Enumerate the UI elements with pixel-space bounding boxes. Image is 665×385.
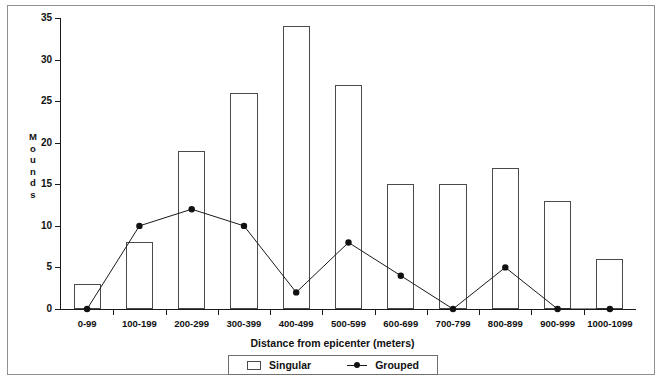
y-tick-label: 25 [26, 96, 52, 106]
bar [387, 184, 414, 309]
x-tick-mark [270, 310, 271, 315]
x-tick-label: 600-699 [375, 318, 427, 329]
x-tick-label: 200-299 [166, 318, 218, 329]
bar [283, 26, 310, 309]
bar [544, 201, 571, 309]
y-tick-label: 30 [26, 55, 52, 65]
y-axis-title: Mounds [26, 131, 40, 200]
x-tick-mark [584, 310, 585, 315]
x-tick-label: 1000-1099 [584, 318, 636, 329]
y-tick-mark [55, 101, 60, 102]
x-tick-mark [375, 310, 376, 315]
y-tick-label: 0 [26, 304, 52, 314]
y-tick-mark [55, 226, 60, 227]
y-tick-mark [55, 143, 60, 144]
legend-label-grouped: Grouped [375, 359, 419, 371]
x-tick-mark [322, 310, 323, 315]
x-tick-mark [427, 310, 428, 315]
bar [74, 284, 101, 309]
y-axis-title-char: M [26, 131, 40, 143]
x-tick-label: 0-99 [61, 318, 113, 329]
x-tick-mark [113, 310, 114, 315]
bar [230, 93, 257, 309]
y-tick-label: 10 [26, 221, 52, 231]
bar [439, 184, 466, 309]
x-axis-line [60, 309, 636, 310]
y-axis-title-char: s [26, 189, 40, 201]
chart-figure: 05101520253035 Mounds 0-99100-199200-299… [0, 0, 665, 385]
y-tick-mark [55, 60, 60, 61]
legend-entry-singular: Singular [247, 359, 311, 371]
x-tick-mark [531, 310, 532, 315]
bar [492, 168, 519, 309]
y-tick-label: 35 [26, 13, 52, 23]
x-tick-label: 500-599 [322, 318, 374, 329]
legend-label-singular: Singular [269, 359, 311, 371]
legend-entry-grouped: Grouped [347, 359, 419, 371]
x-tick-label: 300-399 [218, 318, 270, 329]
chart-legend: Singular Grouped [228, 355, 438, 375]
x-tick-label: 700-799 [427, 318, 479, 329]
y-axis-line [60, 18, 61, 310]
bar [126, 242, 153, 309]
y-axis-title-char: u [26, 154, 40, 166]
x-tick-label: 100-199 [113, 318, 165, 329]
y-tick-mark [55, 309, 60, 310]
y-tick-mark [55, 267, 60, 268]
bar [335, 85, 362, 309]
y-tick-label: 5 [26, 262, 52, 272]
bar [596, 259, 623, 309]
y-axis-title-char: d [26, 177, 40, 189]
x-tick-label: 400-499 [270, 318, 322, 329]
x-tick-label: 800-899 [479, 318, 531, 329]
x-tick-mark [218, 310, 219, 315]
y-tick-mark [55, 18, 60, 19]
legend-swatch-grouped-icon [347, 361, 367, 370]
bar [178, 151, 205, 309]
y-axis-title-char: n [26, 166, 40, 178]
x-axis-title: Distance from epicenter (meters) [0, 337, 665, 349]
x-tick-mark [479, 310, 480, 315]
x-tick-mark [166, 310, 167, 315]
y-axis-title-char: o [26, 143, 40, 155]
legend-swatch-singular-icon [247, 361, 261, 370]
y-tick-mark [55, 184, 60, 185]
x-tick-label: 900-999 [531, 318, 583, 329]
